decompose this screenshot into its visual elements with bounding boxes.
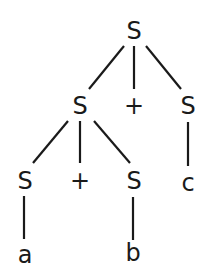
tree-node-n5: +: [70, 167, 90, 195]
parse-tree-diagram: SS+SS+Scab: [0, 0, 207, 278]
tree-node-n7: c: [181, 169, 194, 197]
tree-edge-n1-n6: [94, 121, 130, 163]
tree-node-n1: S: [72, 92, 87, 120]
tree-node-n9: b: [125, 239, 140, 267]
tree-nodes: SS+SS+Scab: [17, 17, 195, 269]
tree-edge-n1-n4: [33, 121, 68, 163]
tree-node-n6: S: [126, 167, 141, 195]
tree-edge-n0-n1: [89, 46, 124, 89]
tree-node-n4: S: [17, 167, 32, 195]
tree-edges: [24, 46, 188, 240]
tree-node-n0: S: [126, 17, 141, 45]
tree-edge-n0-n3: [146, 46, 181, 89]
tree-node-n2: +: [124, 92, 144, 120]
tree-node-n8: a: [18, 241, 33, 269]
tree-node-n3: S: [180, 92, 195, 120]
